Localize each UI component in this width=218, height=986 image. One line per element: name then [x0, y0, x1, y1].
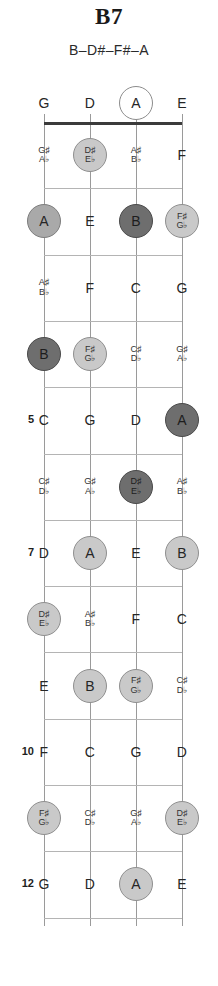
fret-line-9 — [44, 719, 182, 720]
note-label: F — [86, 281, 95, 295]
fret-line-12 — [44, 918, 182, 919]
enharmonic-note-label: G♯A♭ — [176, 345, 188, 364]
note-marker-a-fret-6[interactable]: D♯E♭ — [119, 470, 153, 504]
note-marker-g-fret-8[interactable]: D♯E♭ — [27, 602, 61, 636]
enharmonic-note-label: G♯A♭ — [38, 146, 50, 165]
note-marker-e-fret-1: F — [165, 138, 199, 172]
note-marker-e-fret-4: G♯A♭ — [165, 337, 199, 371]
note-label: E — [39, 679, 49, 693]
note-label: E — [177, 96, 187, 110]
note-label: C — [177, 612, 187, 626]
note-marker-d-fret-4[interactable]: F♯G♭ — [73, 337, 107, 371]
note-label: B — [39, 347, 49, 361]
note-marker-g-fret-4[interactable]: B — [27, 337, 61, 371]
fretboard-diagram: GDAEG♯A♭D♯E♭A♯B♭FAEBF♯G♭A♯B♭FCGBF♯G♭C♯D♭… — [0, 0, 218, 986]
note-marker-g-fret-3: A♯B♭ — [27, 271, 61, 305]
fret-line-7 — [44, 586, 182, 587]
note-marker-a-fret-9[interactable]: F♯G♭ — [119, 669, 153, 703]
note-marker-e-fret-11[interactable]: D♯E♭ — [165, 801, 199, 835]
note-marker-a-fret-1: A♯B♭ — [119, 138, 153, 172]
note-marker-e-fret-12: E — [165, 867, 199, 901]
note-marker-d-fret-1[interactable]: D♯E♭ — [73, 138, 107, 172]
note-label: C — [131, 281, 141, 295]
fret-line-8 — [44, 652, 182, 653]
note-label: D — [39, 546, 49, 560]
note-marker-d-fret-7[interactable]: A — [73, 536, 107, 570]
note-label: A — [131, 877, 141, 891]
enharmonic-note-label: A♯B♭ — [131, 146, 142, 165]
note-label: D — [131, 413, 141, 427]
nut-line — [44, 122, 182, 125]
note-marker-a-fret-4: C♯D♭ — [119, 337, 153, 371]
note-marker-g-fret-10: F — [27, 735, 61, 769]
fret-line-11 — [44, 851, 182, 852]
note-label: G — [176, 281, 187, 295]
note-marker-e-fret-8: C — [165, 602, 199, 636]
note-marker-a-fret-12[interactable]: A — [119, 867, 153, 901]
note-label: A — [85, 546, 95, 560]
enharmonic-note-label: C♯D♭ — [39, 477, 50, 496]
note-label: E — [177, 877, 187, 891]
note-marker-g-fret-11[interactable]: F♯G♭ — [27, 801, 61, 835]
note-marker-a-fret-5: D — [119, 403, 153, 437]
note-marker-e-fret-10: D — [165, 735, 199, 769]
note-marker-g-fret-7: D — [27, 536, 61, 570]
note-label: E — [85, 214, 95, 228]
note-marker-d-fret-5: G — [73, 403, 107, 437]
note-marker-d-fret-2: E — [73, 204, 107, 238]
note-label: E — [131, 546, 141, 560]
note-marker-a-fret-7: E — [119, 536, 153, 570]
note-marker-d-fret-8: A♯B♭ — [73, 602, 107, 636]
note-marker-g-fret-12: G — [27, 867, 61, 901]
note-marker-g-fret-5: C — [27, 403, 61, 437]
note-label: B — [131, 214, 141, 228]
note-label: A — [131, 96, 141, 110]
note-label: F — [40, 745, 49, 759]
note-label: C — [39, 413, 49, 427]
enharmonic-note-label: C♯D♭ — [131, 345, 142, 364]
note-label: F — [132, 612, 141, 626]
note-label: G — [38, 96, 49, 110]
fret-line-3 — [44, 321, 182, 322]
note-marker-a-fret-3: C — [119, 271, 153, 305]
note-marker-g-fret-0: G — [27, 86, 61, 120]
note-label: A — [39, 214, 49, 228]
note-marker-e-fret-2[interactable]: F♯G♭ — [165, 204, 199, 238]
note-label: G — [38, 877, 49, 891]
note-marker-d-fret-10: C — [73, 735, 107, 769]
enharmonic-note-label: D♯E♭ — [131, 477, 142, 496]
note-label: D — [85, 96, 95, 110]
enharmonic-note-label: C♯D♭ — [177, 676, 188, 695]
fret-line-5 — [44, 454, 182, 455]
enharmonic-note-label: A♯B♭ — [85, 610, 96, 629]
enharmonic-note-label: D♯E♭ — [39, 610, 50, 629]
note-marker-e-fret-7[interactable]: B — [165, 536, 199, 570]
note-label: D — [85, 877, 95, 891]
note-marker-e-fret-0: E — [165, 86, 199, 120]
fret-line-10 — [44, 785, 182, 786]
note-marker-a-fret-2[interactable]: B — [119, 204, 153, 238]
note-label: G — [84, 413, 95, 427]
note-marker-g-fret-2[interactable]: A — [27, 204, 61, 238]
note-marker-a-fret-0[interactable]: A — [119, 86, 153, 120]
fret-line-4 — [44, 387, 182, 388]
note-marker-g-fret-6: C♯D♭ — [27, 470, 61, 504]
note-marker-g-fret-9: E — [27, 669, 61, 703]
note-label: B — [85, 679, 95, 693]
note-label: C — [85, 745, 95, 759]
note-marker-a-fret-11: G♯A♭ — [119, 801, 153, 835]
enharmonic-note-label: F♯G♭ — [176, 212, 187, 231]
note-label: G — [130, 745, 141, 759]
enharmonic-note-label: D♯E♭ — [85, 146, 96, 165]
note-marker-d-fret-9[interactable]: B — [73, 669, 107, 703]
note-marker-d-fret-3: F — [73, 271, 107, 305]
fret-line-2 — [44, 255, 182, 256]
note-marker-d-fret-0: D — [73, 86, 107, 120]
note-marker-a-fret-8: F — [119, 602, 153, 636]
enharmonic-note-label: C♯D♭ — [85, 809, 96, 828]
fret-line-1 — [44, 188, 182, 189]
fret-line-6 — [44, 520, 182, 521]
enharmonic-note-label: D♯E♭ — [177, 809, 188, 828]
note-marker-e-fret-6: A♯B♭ — [165, 470, 199, 504]
note-marker-e-fret-5[interactable]: A — [165, 403, 199, 437]
